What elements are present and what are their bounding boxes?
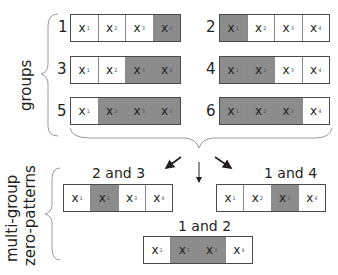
variable-name: x bbox=[310, 63, 317, 77]
variable-index: 2 bbox=[187, 247, 190, 253]
variable-name: x bbox=[310, 21, 317, 35]
variable-name: x bbox=[99, 191, 106, 205]
variable-cell: x1 bbox=[64, 185, 91, 211]
variable-index: 2 bbox=[107, 195, 110, 201]
zero-cell: x1 bbox=[220, 15, 248, 41]
variable-index: 3 bbox=[287, 195, 290, 201]
zero-cell: x4 bbox=[154, 57, 181, 83]
variable-index: 1 bbox=[236, 25, 239, 31]
variable-cell: x4 bbox=[146, 185, 172, 211]
variable-cell: x1 bbox=[71, 15, 99, 41]
variable-name: x bbox=[79, 104, 86, 118]
zero-cell: x3 bbox=[126, 57, 154, 83]
zero-cell: x3 bbox=[272, 185, 299, 211]
variable-name: x bbox=[79, 63, 86, 77]
variable-name: x bbox=[106, 63, 113, 77]
variable-index: 4 bbox=[318, 108, 321, 114]
pattern-label: 1 and 2 bbox=[178, 218, 231, 234]
variable-index: 2 bbox=[114, 25, 117, 31]
variable-name: x bbox=[233, 243, 240, 257]
arrow-right-icon bbox=[215, 157, 231, 168]
variable-name: x bbox=[134, 21, 141, 35]
bottom-brace-icon bbox=[70, 128, 332, 148]
zero-cell: x4 bbox=[154, 98, 181, 124]
variable-name: x bbox=[126, 191, 133, 205]
multi-group-label-line2: zero-patterns bbox=[22, 165, 39, 266]
group-row: x1x2x3x4 bbox=[70, 14, 181, 42]
variable-index: 4 bbox=[169, 67, 172, 73]
variable-name: x bbox=[161, 63, 168, 77]
group-row: x1x2x3x4 bbox=[70, 97, 181, 125]
zero-cell: x1 bbox=[220, 98, 248, 124]
variable-cell: x4 bbox=[303, 15, 330, 41]
pattern-row: x1x2x3x4 bbox=[63, 184, 173, 212]
variable-cell: x3 bbox=[119, 185, 146, 211]
zero-cell: x2 bbox=[248, 57, 276, 83]
variable-cell: x2 bbox=[244, 185, 271, 211]
pattern-row: x1x2x3x4 bbox=[143, 236, 253, 264]
group-number: 2 bbox=[206, 18, 216, 36]
variable-index: 4 bbox=[314, 195, 317, 201]
variable-cell: x1 bbox=[217, 185, 244, 211]
variable-name: x bbox=[224, 191, 231, 205]
group-number: 5 bbox=[57, 102, 67, 120]
variable-index: 2 bbox=[114, 67, 117, 73]
variable-name: x bbox=[79, 21, 86, 35]
variable-name: x bbox=[228, 21, 235, 35]
variable-cell: x2 bbox=[99, 15, 127, 41]
variable-index: 3 bbox=[214, 247, 217, 253]
variable-cell: x1 bbox=[71, 57, 99, 83]
variable-cell: x4 bbox=[303, 57, 330, 83]
variable-name: x bbox=[161, 104, 168, 118]
variable-name: x bbox=[283, 63, 290, 77]
variable-name: x bbox=[161, 21, 168, 35]
variable-index: 3 bbox=[134, 195, 137, 201]
groups-label: groups bbox=[18, 60, 35, 111]
variable-name: x bbox=[206, 243, 213, 257]
variable-index: 4 bbox=[318, 25, 321, 31]
variable-index: 2 bbox=[263, 108, 266, 114]
variable-index: 3 bbox=[291, 108, 294, 114]
variable-name: x bbox=[255, 104, 262, 118]
group-number: 4 bbox=[206, 60, 216, 78]
variable-cell: x4 bbox=[303, 98, 330, 124]
variable-name: x bbox=[310, 104, 317, 118]
variable-index: 3 bbox=[291, 25, 294, 31]
zero-cell: x1 bbox=[220, 57, 248, 83]
variable-index: 2 bbox=[263, 67, 266, 73]
variable-cell: x3 bbox=[126, 15, 154, 41]
pattern-row: x1x2x3x4 bbox=[216, 184, 326, 212]
variable-index: 1 bbox=[87, 108, 90, 114]
group-row: x1x2x3x4 bbox=[70, 56, 181, 84]
zero-pattern-diagram: groups multi-group zero-patterns 1 2 3 4… bbox=[0, 0, 338, 275]
variable-cell: x4 bbox=[299, 185, 325, 211]
group-number: 3 bbox=[57, 60, 67, 78]
variable-cell: x2 bbox=[248, 15, 276, 41]
variable-index: 3 bbox=[142, 25, 145, 31]
variable-name: x bbox=[134, 63, 141, 77]
variable-index: 2 bbox=[263, 25, 266, 31]
variable-name: x bbox=[179, 243, 186, 257]
zero-cell: x2 bbox=[91, 185, 118, 211]
variable-name: x bbox=[279, 191, 286, 205]
zero-cell: x3 bbox=[275, 98, 303, 124]
variable-name: x bbox=[151, 243, 158, 257]
variable-name: x bbox=[255, 63, 262, 77]
zero-cell: x2 bbox=[99, 98, 127, 124]
variable-index: 1 bbox=[87, 25, 90, 31]
zero-cell: x3 bbox=[199, 237, 226, 263]
variable-name: x bbox=[153, 191, 160, 205]
variable-name: x bbox=[228, 63, 235, 77]
group-row: x1x2x3x4 bbox=[219, 56, 330, 84]
variable-index: 1 bbox=[80, 195, 83, 201]
arrow-left-icon bbox=[166, 157, 181, 168]
variable-index: 4 bbox=[318, 67, 321, 73]
variable-index: 1 bbox=[233, 195, 236, 201]
multi-group-brace-icon bbox=[45, 168, 60, 260]
pattern-label: 1 and 4 bbox=[264, 165, 317, 181]
variable-name: x bbox=[71, 191, 78, 205]
variable-index: 4 bbox=[169, 108, 172, 114]
zero-cell: x4 bbox=[154, 15, 181, 41]
variable-index: 2 bbox=[114, 108, 117, 114]
variable-index: 1 bbox=[236, 67, 239, 73]
